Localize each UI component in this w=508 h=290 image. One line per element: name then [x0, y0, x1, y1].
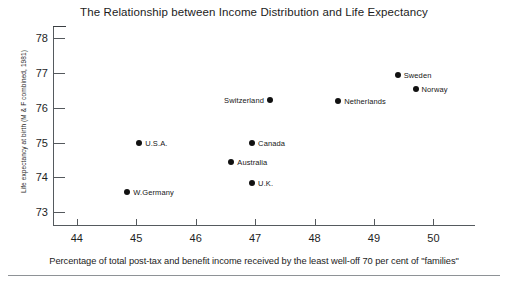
x-axis-line	[53, 225, 475, 226]
y-tick: 76	[54, 108, 65, 109]
plot-area: 737475767778 44454647484950 SwedenNorway…	[53, 26, 475, 226]
data-point-marker	[136, 140, 142, 146]
data-point-label: Norway	[422, 84, 448, 93]
y-tick-label: 78	[36, 32, 48, 44]
x-tick	[374, 219, 375, 226]
data-point-label: U.S.A.	[145, 138, 167, 147]
chart-title: The Relationship between Income Distribu…	[0, 6, 508, 18]
x-tick	[433, 219, 434, 226]
x-tick	[196, 219, 197, 226]
y-tick-label: 74	[36, 171, 48, 183]
y-tick-label: 77	[36, 67, 48, 79]
x-tick-label: 46	[190, 232, 202, 244]
data-point-label: Sweden	[404, 70, 432, 79]
data-point-label: Netherlands	[344, 96, 386, 105]
y-tick-label: 73	[36, 206, 48, 218]
data-point-label: U.K.	[258, 179, 273, 188]
y-axis-line	[53, 26, 54, 226]
x-tick-label: 45	[130, 232, 142, 244]
chart-figure: The Relationship between Income Distribu…	[0, 0, 508, 290]
data-point-marker	[124, 189, 130, 195]
data-point-marker	[413, 86, 419, 92]
x-tick-label: 50	[427, 232, 439, 244]
y-tick: 78	[54, 38, 65, 39]
data-point-marker	[395, 72, 401, 78]
y-tick-label: 76	[36, 102, 48, 114]
y-tick: 75	[54, 143, 65, 144]
y-tick: 77	[54, 73, 65, 74]
data-point-label: Canada	[258, 138, 285, 147]
y-axis-title: Life expectancy at birth (M & F combined…	[20, 37, 27, 207]
x-tick	[77, 219, 78, 226]
footer-divider	[8, 275, 500, 276]
x-tick-label: 47	[249, 232, 261, 244]
y-tick: 73	[54, 212, 65, 213]
data-point-label: Australia	[237, 158, 267, 167]
x-tick-label: 49	[368, 232, 380, 244]
x-tick	[255, 219, 256, 226]
y-tick-label: 75	[36, 137, 48, 149]
y-tick: 74	[54, 177, 65, 178]
x-tick	[315, 219, 316, 226]
data-point-marker	[228, 159, 234, 165]
data-point-marker	[267, 97, 273, 103]
data-point-marker	[249, 180, 255, 186]
x-axis-caption: Percentage of total post-tax and benefit…	[0, 256, 508, 266]
data-point-label: Switzerland	[224, 95, 264, 104]
data-point-marker	[335, 98, 341, 104]
data-point-label: W.Germany	[133, 188, 174, 197]
y-axis-top-cap	[53, 26, 66, 27]
x-tick	[136, 219, 137, 226]
x-tick-label: 48	[308, 232, 320, 244]
data-point-marker	[249, 140, 255, 146]
x-tick-label: 44	[71, 232, 83, 244]
